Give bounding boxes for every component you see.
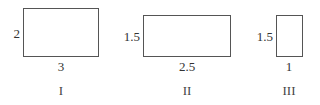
- rectangle-ii: [143, 15, 231, 57]
- rectangle-iii: [276, 15, 303, 57]
- rectangle-i-name: I: [59, 84, 63, 97]
- rectangle-i: [23, 8, 99, 57]
- rectangle-iii-height-label: 1.5: [257, 30, 273, 43]
- rectangle-iii-name: III: [283, 84, 296, 97]
- rectangle-iii-width-label: 1: [286, 60, 293, 73]
- rectangle-i-width-label: 3: [58, 60, 65, 73]
- rectangle-i-height-label: 2: [14, 27, 21, 40]
- rectangle-ii-width-label: 2.5: [179, 60, 195, 73]
- rectangle-ii-name: II: [183, 84, 192, 97]
- rectangle-ii-height-label: 1.5: [124, 30, 140, 43]
